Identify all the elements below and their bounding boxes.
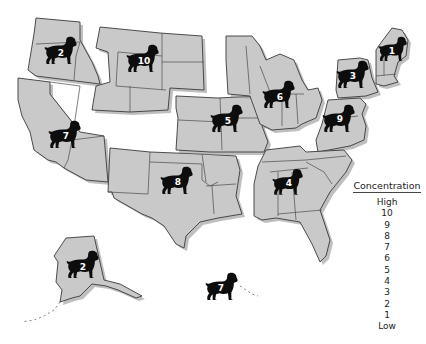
region-hawaii: 7	[206, 273, 258, 300]
svg-text:3: 3	[350, 71, 356, 81]
svg-text:7: 7	[218, 283, 224, 293]
svg-text:4: 4	[286, 178, 292, 188]
legend-title: Concentration	[353, 180, 420, 193]
svg-text:7: 7	[63, 131, 69, 141]
svg-text:6: 6	[277, 92, 283, 102]
legend-item-1: 1	[352, 310, 422, 321]
legend-item-high: High	[352, 197, 422, 208]
legend-item-7: 7	[352, 242, 422, 253]
svg-text:2: 2	[80, 262, 86, 272]
legend-item-low: Low	[352, 321, 422, 332]
legend-item-6: 6	[352, 253, 422, 264]
region-new-england: 1	[376, 28, 411, 89]
svg-text:1: 1	[389, 46, 395, 56]
legend-item-4: 4	[352, 276, 422, 287]
legend-item-8: 8	[352, 231, 422, 242]
concentration-legend: Concentration High 10 9 8 7 6 5 4 3 2 1 …	[352, 174, 422, 333]
region-new-york: 3	[336, 58, 381, 101]
region-northwest: 2	[28, 18, 103, 87]
legend-item-9: 9	[352, 220, 422, 231]
svg-text:10: 10	[138, 56, 151, 66]
legend-item-10: 10	[352, 208, 422, 219]
legend-item-5: 5	[352, 265, 422, 276]
legend-item-3: 3	[352, 287, 422, 298]
svg-text:5: 5	[225, 116, 231, 126]
svg-text:8: 8	[175, 177, 181, 187]
svg-text:9: 9	[337, 114, 343, 124]
legend-item-2: 2	[352, 299, 422, 310]
region-alaska: 2	[22, 236, 145, 322]
region-south-central: 8	[108, 148, 245, 251]
region-southeast: 4	[254, 146, 355, 265]
svg-text:2: 2	[58, 48, 64, 58]
region-mid-atlantic: 9	[316, 98, 369, 155]
